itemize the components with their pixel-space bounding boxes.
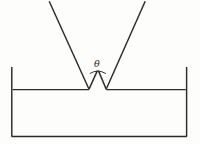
left-ray-line — [49, 1, 89, 89]
angle-theta-label: θ — [94, 59, 100, 69]
figure-root: θ — [0, 0, 200, 144]
line-diagram — [0, 0, 200, 144]
angle-arc — [90, 71, 106, 74]
right-ray-line — [106, 1, 145, 89]
